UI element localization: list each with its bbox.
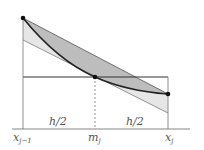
half-width-right-label: h/2 bbox=[126, 115, 144, 128]
x-left-label: xj−1 bbox=[13, 131, 32, 145]
midpoint bbox=[93, 75, 98, 80]
chord-line bbox=[23, 18, 168, 94]
half-width-left-label: h/2 bbox=[49, 115, 67, 128]
midpoint-rule-diagram: h/2 h/2 xj−1 mj xj bbox=[0, 0, 204, 150]
m-mid-label: mj bbox=[88, 131, 101, 145]
right-endpoint bbox=[166, 92, 171, 97]
left-endpoint bbox=[21, 16, 26, 21]
x-right-label: xj bbox=[165, 131, 174, 145]
